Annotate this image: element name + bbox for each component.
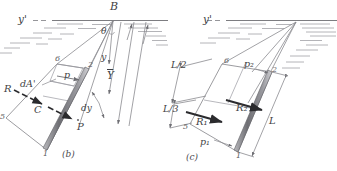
depth-dimension-y	[109, 22, 121, 94]
area-element-label-dA: dA'	[20, 79, 36, 89]
resultant-label-R: R	[4, 84, 12, 94]
apex-label-B: B	[110, 1, 118, 12]
water-hatching-c	[200, 24, 336, 68]
panel-c-linework	[170, 21, 337, 158]
corner-label-c-1: 1	[236, 152, 241, 160]
corner-label-c-5: 5	[183, 123, 188, 131]
corner-label-b-1: 1	[43, 150, 48, 158]
caption-b: (b)	[62, 150, 75, 159]
caption-c: (c)	[186, 153, 198, 162]
dimension-label-L-half: L/2	[171, 60, 187, 70]
ybar-overline: Ȳ	[107, 70, 114, 81]
depth-label-y: y	[101, 52, 106, 62]
pressure-point-label-P: P	[77, 122, 84, 132]
surface-label-b: y'	[18, 14, 27, 25]
depth-dimension-ybar	[118, 22, 146, 126]
dy-dimension-b	[92, 92, 104, 118]
pressure-label-p: p	[64, 70, 70, 80]
figure-linework	[0, 0, 337, 171]
figure-container: y' B θ y Ȳ 6 2 5 1 p R dA' C dy P (b) y'…	[0, 0, 337, 171]
surface-label-c: y'	[203, 14, 212, 25]
dimension-label-L: L	[269, 116, 276, 126]
strip-label-dy: dy	[81, 104, 92, 113]
corner-label-c-6: 6	[224, 57, 229, 65]
force-label-R2: R₂	[236, 103, 248, 113]
force-label-R1: R₁	[196, 117, 208, 127]
pressure-label-p2: p₂	[244, 59, 254, 69]
water-hatching-b	[0, 24, 168, 53]
corner-label-b-6: 6	[55, 55, 60, 63]
corner-label-c-2: 2	[272, 66, 277, 74]
centroid-label-C: C	[34, 105, 42, 115]
pressure-label-p1: p₁	[200, 137, 210, 147]
pressure-leader-p1	[214, 140, 232, 146]
dimension-label-L-third: L/3	[163, 104, 179, 114]
corner-label-b-5: 5	[0, 113, 5, 121]
corner-label-b-2: 2	[88, 61, 93, 69]
centroid-depth-label-ybar: Ȳ	[107, 70, 114, 81]
angle-label-theta: θ	[101, 27, 106, 36]
plate-outline-b	[6, 64, 89, 150]
